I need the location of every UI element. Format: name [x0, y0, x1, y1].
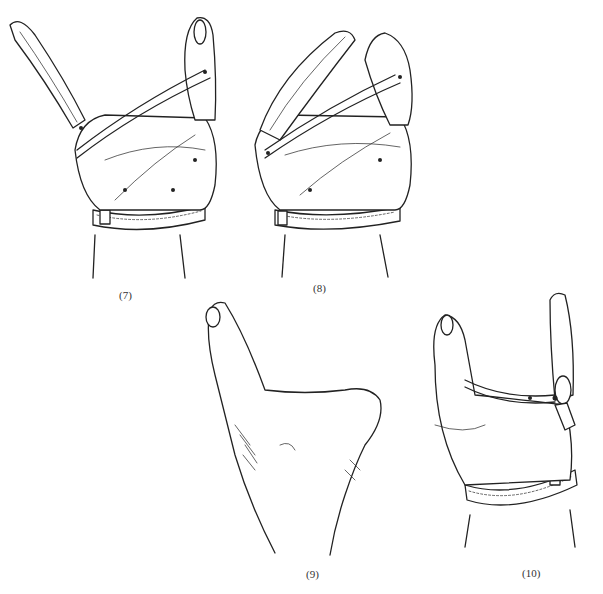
figure-9-caption: (9) [306, 568, 319, 580]
orthosis-dorsal-drawing [405, 285, 600, 550]
figure-7-orthosis-open [5, 10, 235, 280]
bare-hand-drawing [195, 295, 405, 555]
figure-10-caption: (10) [522, 567, 540, 579]
figure-7-caption: (7) [119, 289, 132, 301]
orthosis-closed-drawing [240, 25, 450, 280]
figure-8-caption: (8) [313, 282, 326, 294]
figure-8-orthosis-closed [240, 25, 450, 280]
figure-10-orthosis-dorsal [405, 285, 600, 550]
orthosis-open-drawing [5, 10, 235, 280]
figure-9-bare-hand [195, 295, 405, 555]
